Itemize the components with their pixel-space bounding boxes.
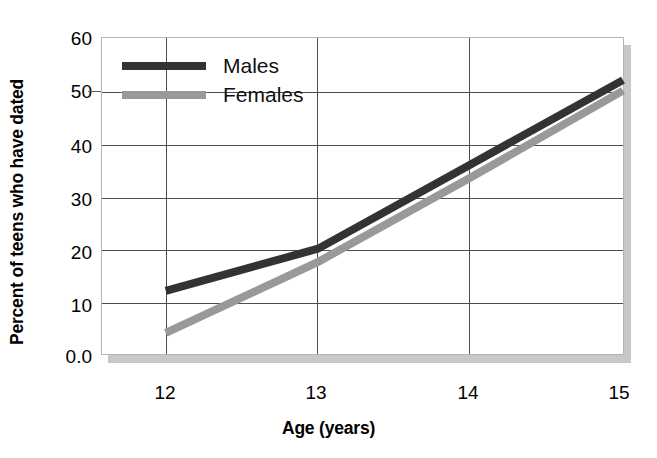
y-tick-label-30: 30	[40, 190, 92, 209]
x-tick-label-12: 12	[135, 383, 195, 402]
y-tick-label-20: 20	[40, 243, 92, 262]
chart-page: Percent of teens who have dated 60 50 40…	[0, 0, 657, 458]
legend-item-females: Females	[122, 80, 337, 109]
line-series-females	[166, 91, 623, 333]
x-axis-title: Age (years)	[0, 418, 657, 439]
y-tick-label-50: 50	[40, 82, 92, 101]
x-tick-label-15: 15	[589, 383, 649, 402]
legend-swatch-females	[122, 91, 206, 99]
y-axis-tick-mark-50	[88, 91, 102, 92]
y-tick-label-0: 0.0	[40, 347, 92, 366]
x-axis-tick-labels: 12 13 14 15	[0, 383, 657, 409]
legend-item-males: Males	[122, 51, 337, 80]
plot-area: Males Females	[102, 38, 623, 354]
x-tick-label-13: 13	[286, 383, 346, 402]
legend-label-males: Males	[223, 55, 279, 76]
y-axis-title: Percent of teens who have dated	[0, 42, 34, 382]
line-series-males	[166, 80, 623, 291]
x-tick-label-14: 14	[438, 383, 498, 402]
y-tick-label-40: 40	[40, 137, 92, 156]
legend: Males Females	[122, 51, 337, 109]
y-tick-label-60: 60	[40, 29, 92, 48]
legend-label-females: Females	[223, 84, 304, 105]
y-tick-label-10: 10	[40, 296, 92, 315]
legend-swatch-males	[122, 62, 206, 70]
plot-frame: Males Females	[101, 37, 624, 355]
